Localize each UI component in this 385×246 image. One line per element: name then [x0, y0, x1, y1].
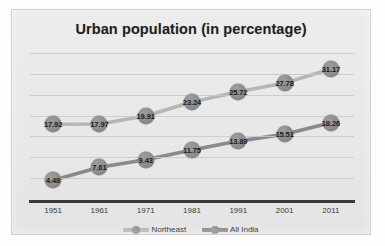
data-point-label: 23.24: [183, 98, 201, 107]
data-point-label: 13.89: [229, 137, 247, 146]
data-point-label: 25.72: [229, 87, 247, 96]
gridline: [30, 136, 354, 137]
x-axis-tick-label: 1951: [44, 206, 62, 215]
gridline: [30, 116, 354, 117]
chart-legend: Northeast All India: [12, 225, 370, 234]
legend-item-all-india[interactable]: All India: [202, 225, 258, 234]
x-axis-tick-label: 2001: [276, 206, 294, 215]
chart-panel: Urban population (in percentage) 17.9217…: [11, 9, 371, 235]
gridline: [30, 74, 354, 75]
x-axis-tick-label: 2011: [322, 206, 339, 215]
legend-label-northeast: Northeast: [151, 225, 186, 234]
data-point-label: 7.61: [92, 163, 106, 172]
x-axis-tick-label: 1981: [183, 206, 201, 215]
x-axis-tick-label: 1991: [229, 206, 247, 215]
data-point-label: 9.43: [139, 155, 153, 164]
data-point-label: 15.51: [275, 130, 293, 139]
screenshot-root: Urban population (in percentage) 17.9217…: [0, 0, 385, 246]
data-point-label: 19.91: [137, 111, 155, 120]
gridline: [30, 53, 354, 54]
chart-title: Urban population (in percentage): [12, 21, 370, 37]
x-axis-tick-label: 1961: [90, 206, 108, 215]
data-point-label: 18.26: [322, 118, 340, 127]
legend-item-northeast[interactable]: Northeast: [123, 225, 186, 234]
x-axis-tick-label: 1971: [137, 206, 155, 215]
legend-marker-all-india: [202, 225, 228, 234]
plot-area: 17.9217.9719.9123.2425.7227.7831.174.487…: [30, 53, 354, 199]
legend-label-all-india: All India: [230, 225, 258, 234]
data-point-label: 17.97: [90, 120, 108, 129]
x-axis-line: [29, 200, 355, 203]
gridline: [30, 178, 354, 179]
data-point-label: 17.92: [44, 120, 62, 129]
data-point-label: 31.17: [322, 65, 340, 74]
data-point-label: 4.48: [46, 176, 60, 185]
data-point-label: 27.78: [275, 79, 293, 88]
legend-marker-northeast: [123, 225, 149, 234]
data-point-label: 11.75: [183, 146, 201, 155]
series-lines: [30, 53, 354, 199]
